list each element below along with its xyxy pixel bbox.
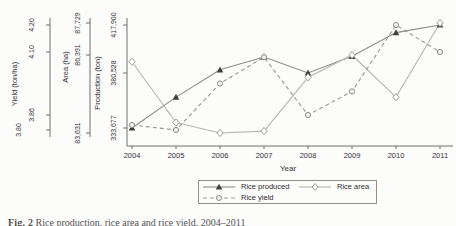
axis-area-tick-label: 83,631 bbox=[74, 122, 81, 144]
axis-production-tick-label: 380,528 bbox=[110, 60, 117, 85]
axis-title-area: Area (ha) bbox=[61, 51, 70, 83]
axis-yield-tick-label: 3.80 bbox=[15, 123, 22, 137]
figure-caption-text: Rice production, rice area and rice yiel… bbox=[36, 217, 246, 226]
series-rice-yield-marker-2006 bbox=[217, 81, 222, 86]
axis-yield-tick-label: 4.20 bbox=[28, 18, 35, 32]
axis-production-tick-label: 333,677 bbox=[110, 115, 117, 140]
series-rice-produced-line bbox=[132, 25, 440, 128]
series-rice-yield-marker-2007 bbox=[261, 55, 266, 60]
legend-item-rice-yield: Rice yield bbox=[202, 193, 298, 203]
series-rice-area-line bbox=[132, 23, 440, 133]
figure-canvas: 3.803.864.104.20Yield (ton/ha)83,63186,3… bbox=[0, 0, 456, 226]
series-rice-yield-line bbox=[132, 25, 440, 130]
axis-title-production: Production (ton) bbox=[93, 56, 102, 110]
figure-caption-label: Fig. 2 bbox=[8, 217, 33, 226]
legend-label-rice-yield: Rice yield bbox=[241, 194, 274, 202]
legend-label-rice-area: Rice area bbox=[337, 183, 369, 191]
axis-yield-tick-label: 3.86 bbox=[28, 108, 35, 122]
legend-item-rice-produced: Rice produced bbox=[202, 182, 298, 192]
series-rice-yield-marker-2010 bbox=[393, 22, 398, 27]
series-rice-area-marker-2006 bbox=[217, 129, 223, 136]
series-rice-produced-marker-2005 bbox=[173, 94, 180, 100]
axis-area-tick-label: 87,729 bbox=[74, 12, 81, 34]
year-tick-label: 2009 bbox=[344, 151, 361, 160]
circle-open-icon bbox=[217, 195, 222, 200]
legend-item-rice-area: Rice area bbox=[298, 182, 374, 192]
legend-label-rice-produced: Rice produced bbox=[241, 183, 289, 191]
year-tick-label: 2004 bbox=[124, 151, 141, 160]
series-rice-yield-marker-2005 bbox=[173, 127, 178, 132]
figure-page: { "figure": { "caption_label": "Fig. 2",… bbox=[0, 0, 456, 226]
year-tick-label: 2005 bbox=[168, 151, 185, 160]
year-tick-label: 2006 bbox=[212, 151, 229, 160]
chart-legend: Rice producedRice yieldRice area bbox=[198, 180, 377, 204]
axis-title-yield: Yield (ton/ha) bbox=[10, 61, 19, 106]
year-tick-label: 2008 bbox=[300, 151, 317, 160]
series-rice-yield-marker-2011 bbox=[437, 49, 442, 54]
legend-sample-rice-area bbox=[298, 182, 332, 192]
diamond-open-icon bbox=[312, 183, 318, 190]
year-tick-label: 2011 bbox=[432, 151, 448, 160]
series-rice-yield-marker-2004 bbox=[129, 122, 134, 127]
x-axis-title: Year bbox=[280, 164, 297, 173]
legend-sample-rice-yield bbox=[202, 193, 236, 203]
year-tick-label: 2010 bbox=[388, 151, 405, 160]
axis-yield-tick-label: 4.10 bbox=[28, 45, 35, 59]
year-tick-label: 2007 bbox=[256, 151, 273, 160]
axis-production-tick-label: 417,900 bbox=[110, 12, 117, 37]
series-rice-yield-marker-2009 bbox=[349, 89, 354, 94]
figure-caption: Fig. 2 Rice production, rice area and ri… bbox=[8, 217, 448, 226]
series-rice-yield-marker-2008 bbox=[305, 112, 310, 117]
axis-area-tick-label: 86,391 bbox=[74, 44, 81, 66]
chart-canvas: 3.803.864.104.20Yield (ton/ha)83,63186,3… bbox=[0, 0, 456, 176]
legend-sample-rice-produced bbox=[202, 182, 236, 192]
